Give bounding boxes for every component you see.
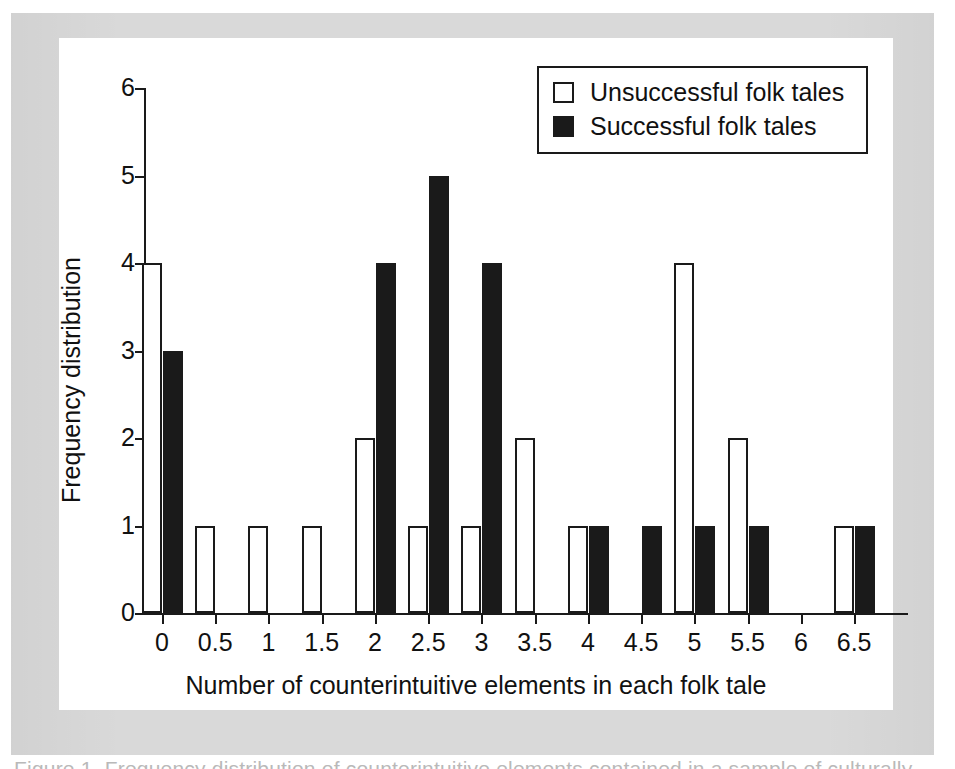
legend-label-successful: Successful folk tales xyxy=(590,114,817,139)
x-tick-mark xyxy=(428,613,430,624)
x-tick-label: 3 xyxy=(474,630,488,655)
x-tick-mark xyxy=(748,613,750,624)
x-tick-label: 3.5 xyxy=(517,630,552,655)
legend-swatch-unsuccessful-icon xyxy=(553,82,574,103)
x-tick-mark xyxy=(481,613,483,624)
bar-successful-6.5 xyxy=(855,526,875,614)
figure-panel: Frequency distribution 0123456 00.511.52… xyxy=(59,38,893,710)
y-tick-label: 3 xyxy=(121,338,135,363)
x-tick-label: 6.5 xyxy=(837,630,872,655)
x-tick-mark xyxy=(694,613,696,624)
x-axis-title: Number of counterintuitive elements in e… xyxy=(59,671,893,700)
x-tick-mark xyxy=(375,613,377,624)
x-tick-label: 1.5 xyxy=(304,630,339,655)
bar-successful-3 xyxy=(482,263,502,613)
x-tick-label: 5 xyxy=(687,630,701,655)
x-tick-mark xyxy=(588,613,590,624)
y-tick-label: 2 xyxy=(121,425,135,450)
bar-successful-5 xyxy=(695,526,715,614)
bar-unsuccessful-2 xyxy=(355,438,375,613)
x-tick-mark xyxy=(215,613,217,624)
bar-unsuccessful-5 xyxy=(674,263,694,613)
bar-successful-4.5 xyxy=(642,526,662,614)
y-tick-mark xyxy=(135,613,144,615)
x-tick-mark xyxy=(322,613,324,624)
x-tick-label: 0 xyxy=(155,630,169,655)
bar-successful-5.5 xyxy=(749,526,769,614)
bar-unsuccessful-3 xyxy=(461,526,481,614)
x-tick-mark xyxy=(854,613,856,624)
x-tick-label: 2.5 xyxy=(411,630,446,655)
legend-item-unsuccessful: Unsuccessful folk tales xyxy=(553,75,844,109)
y-tick-label: 0 xyxy=(121,600,135,625)
y-axis-title: Frequency distribution xyxy=(57,257,86,503)
chart-legend: Unsuccessful folk tales Successful folk … xyxy=(537,66,868,154)
x-tick-label: 4.5 xyxy=(624,630,659,655)
y-tick-label: 6 xyxy=(121,75,135,100)
x-axis-line xyxy=(144,613,908,615)
x-tick-label: 0.5 xyxy=(198,630,233,655)
bar-unsuccessful-5.5 xyxy=(728,438,748,613)
x-tick-mark xyxy=(801,613,803,624)
x-tick-label: 4 xyxy=(581,630,595,655)
x-tick-mark xyxy=(268,613,270,624)
bar-unsuccessful-0 xyxy=(142,263,162,613)
bar-unsuccessful-4 xyxy=(568,526,588,614)
x-tick-label: 5.5 xyxy=(730,630,765,655)
legend-swatch-successful-icon xyxy=(553,116,574,137)
bar-unsuccessful-1 xyxy=(248,526,268,614)
bar-unsuccessful-0.5 xyxy=(195,526,215,614)
x-tick-label: 1 xyxy=(262,630,276,655)
x-tick-mark xyxy=(641,613,643,624)
bar-unsuccessful-1.5 xyxy=(302,526,322,614)
x-tick-mark xyxy=(535,613,537,624)
legend-item-successful: Successful folk tales xyxy=(553,109,844,143)
bar-successful-2.5 xyxy=(429,176,449,614)
y-tick-label: 4 xyxy=(121,250,135,275)
bar-unsuccessful-3.5 xyxy=(515,438,535,613)
y-tick-label: 1 xyxy=(121,513,135,538)
y-tick-label: 5 xyxy=(121,163,135,188)
y-tick-mark xyxy=(135,176,144,178)
bar-successful-0 xyxy=(163,351,183,614)
x-tick-label: 2 xyxy=(368,630,382,655)
figure-caption: Figure 1. Frequency distribution of coun… xyxy=(14,757,939,769)
y-tick-mark xyxy=(135,88,144,90)
bar-unsuccessful-6.5 xyxy=(834,526,854,614)
x-tick-mark xyxy=(162,613,164,624)
plot-area: 0123456 00.511.522.533.544.555.566.5 xyxy=(144,88,908,613)
page-background: Frequency distribution 0123456 00.511.52… xyxy=(0,0,955,769)
bar-successful-4 xyxy=(589,526,609,614)
bar-successful-2 xyxy=(376,263,396,613)
bar-unsuccessful-2.5 xyxy=(408,526,428,614)
legend-label-unsuccessful: Unsuccessful folk tales xyxy=(590,80,844,105)
x-tick-label: 6 xyxy=(794,630,808,655)
